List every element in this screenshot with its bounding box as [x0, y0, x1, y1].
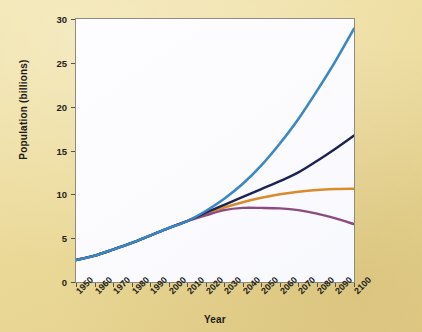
y-axis-tick-label: 20	[45, 101, 67, 112]
x-axis-tick	[280, 283, 281, 287]
series-line-high-variant	[76, 29, 354, 260]
x-axis-tick	[169, 283, 170, 287]
y-axis-tick-label: 30	[45, 14, 67, 25]
y-axis-tick-label: 25	[45, 57, 67, 68]
plot-area	[75, 18, 355, 283]
x-axis-title: Year	[75, 314, 355, 325]
x-axis-tick	[113, 283, 114, 287]
x-axis-tick	[261, 283, 262, 287]
x-axis-tick	[132, 283, 133, 287]
series-lines-svg	[76, 19, 354, 282]
series-line-low-variant	[76, 208, 354, 260]
x-axis-tick-label: 2100	[352, 275, 373, 296]
y-axis-tick-label: 0	[45, 277, 67, 288]
y-axis-tick-label: 15	[45, 145, 67, 156]
x-axis-tick	[95, 283, 96, 287]
x-axis-tick	[206, 283, 207, 287]
x-axis-tick	[354, 283, 355, 287]
x-axis-tick	[76, 283, 77, 287]
series-line-medium-variant	[76, 136, 354, 260]
y-axis-tick-label: 5	[45, 233, 67, 244]
x-axis-tick	[298, 283, 299, 287]
x-axis-tick	[150, 283, 151, 287]
chart-figure: 051015202530 195019601970198019902000201…	[0, 0, 422, 332]
x-axis-tick	[317, 283, 318, 287]
x-axis-tick	[224, 283, 225, 287]
x-axis-tick	[335, 283, 336, 287]
x-axis-tick	[243, 283, 244, 287]
x-axis-tick	[187, 283, 188, 287]
series-line-constant-fertility-low	[76, 189, 354, 260]
y-axis-tick-label: 10	[45, 189, 67, 200]
y-axis-title: Population (billions)	[18, 20, 29, 200]
